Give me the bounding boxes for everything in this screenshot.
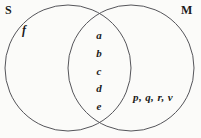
set-label-s: S (5, 4, 12, 16)
member-label: b (96, 48, 102, 59)
member-label: p, q, r, v (133, 92, 173, 103)
member-label: e (97, 101, 102, 112)
member-label: a (96, 30, 102, 41)
region-right-only: p, q, r, v (133, 92, 195, 108)
member-label: d (96, 83, 102, 94)
member-label: c (97, 66, 102, 77)
member-label: f (22, 24, 26, 36)
set-label-m: M (181, 4, 193, 16)
region-left-only: f (22, 24, 42, 40)
venn-diagram: S M f a b c d e p, q, r, v (0, 0, 201, 138)
region-intersection: a b c d e (84, 30, 114, 112)
